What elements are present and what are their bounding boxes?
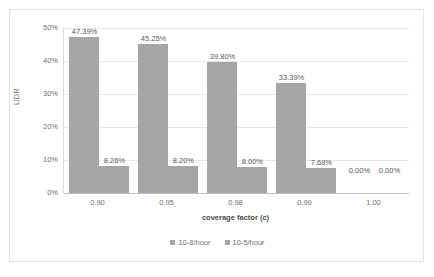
x-axis-title: coverage factor (c) bbox=[63, 213, 408, 222]
bars-layer: 47.39% 8.26% 45.25% 8.20% bbox=[64, 28, 409, 193]
y-tick-label: 50% bbox=[24, 24, 58, 32]
bar-slot: 8.00% bbox=[237, 28, 267, 193]
bar-value-label: 39.80% bbox=[210, 52, 235, 61]
bar-value-label: 0.00% bbox=[349, 166, 370, 175]
bar-value-label: 8.26% bbox=[104, 156, 125, 165]
y-tick-label: 20% bbox=[24, 123, 58, 131]
bar-series2[interactable] bbox=[237, 167, 267, 193]
y-tick-label: 10% bbox=[24, 156, 58, 164]
x-tick-label: 0.99 bbox=[270, 198, 339, 207]
bar-slot: 47.39% bbox=[69, 28, 99, 193]
x-tick-label: 0.98 bbox=[201, 198, 270, 207]
bar-series1[interactable] bbox=[69, 37, 99, 193]
bar-series2[interactable] bbox=[168, 166, 198, 193]
bar-group: 0.00% 0.00% bbox=[340, 28, 409, 193]
bar-series2[interactable] bbox=[306, 168, 336, 193]
bar-value-label: 0.00% bbox=[379, 166, 400, 175]
bar-slot: 39.80% bbox=[207, 28, 237, 193]
bar-slot: 8.26% bbox=[99, 28, 129, 193]
bar-slot: 33.39% bbox=[276, 28, 306, 193]
bar-value-label: 45.25% bbox=[141, 34, 166, 43]
plot-wrapper: UDR 50% 40% 30% 20% 10% 0% 47.39% bbox=[10, 10, 425, 263]
bar-slot: 45.25% bbox=[138, 28, 168, 193]
bar-slot: 0.00% bbox=[345, 28, 375, 193]
bar-value-label: 47.39% bbox=[72, 27, 97, 36]
bar-series1[interactable] bbox=[138, 44, 168, 193]
y-tick-label: 40% bbox=[24, 57, 58, 65]
bar-value-label: 8.20% bbox=[173, 156, 194, 165]
bar-value-label: 8.00% bbox=[242, 157, 263, 166]
bar-series2[interactable] bbox=[99, 166, 129, 193]
legend-label: 10-8/hour bbox=[178, 238, 210, 247]
bar-slot: 8.20% bbox=[168, 28, 198, 193]
x-tick-label: 0.90 bbox=[63, 198, 132, 207]
legend-swatch-icon bbox=[170, 240, 175, 245]
bar-slot: 7.68% bbox=[306, 28, 336, 193]
x-tick-label: 1.00 bbox=[339, 198, 408, 207]
bar-slot: 0.00% bbox=[375, 28, 405, 193]
bar-group: 33.39% 7.68% bbox=[271, 28, 340, 193]
y-tick-label: 30% bbox=[24, 90, 58, 98]
bar-group: 45.25% 8.20% bbox=[133, 28, 202, 193]
chart-legend: 10-8/hour 10-5/hour bbox=[10, 238, 425, 247]
bar-series1[interactable] bbox=[207, 62, 237, 193]
bar-group: 39.80% 8.00% bbox=[202, 28, 271, 193]
legend-item-series2[interactable]: 10-5/hour bbox=[225, 238, 265, 247]
legend-label: 10-5/hour bbox=[233, 238, 265, 247]
bar-series1[interactable] bbox=[276, 83, 306, 193]
x-axis-title-suffix: ) bbox=[267, 213, 270, 222]
bar-group: 47.39% 8.26% bbox=[64, 28, 133, 193]
y-axis-tick-labels: 50% 40% 30% 20% 10% 0% bbox=[20, 10, 58, 263]
y-tick-label: 0% bbox=[24, 189, 58, 197]
legend-swatch-icon bbox=[225, 240, 230, 245]
x-tick-label: 0.95 bbox=[132, 198, 201, 207]
bar-value-label: 7.68% bbox=[311, 158, 332, 167]
legend-item-series1[interactable]: 10-8/hour bbox=[170, 238, 210, 247]
chart-container: UDR 50% 40% 30% 20% 10% 0% 47.39% bbox=[9, 9, 424, 262]
x-axis-title-prefix: coverage factor ( bbox=[202, 213, 262, 222]
x-axis-tick-labels: 0.90 0.95 0.98 0.99 1.00 bbox=[63, 198, 408, 207]
bar-value-label: 33.39% bbox=[279, 73, 304, 82]
plot-area: 47.39% 8.26% 45.25% 8.20% bbox=[63, 28, 409, 194]
